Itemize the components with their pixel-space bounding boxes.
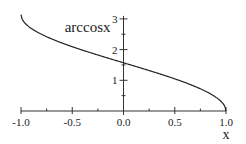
- x-axis-label: x: [223, 127, 230, 142]
- x-tick-label: 0.0: [117, 116, 131, 128]
- curve-label: arccosx: [65, 19, 111, 35]
- arccos-chart: -1.0-0.50.00.51.0123 arccosx x: [0, 0, 246, 144]
- y-tick-label: 3: [112, 13, 118, 25]
- x-tick-label: -1.0: [12, 116, 30, 128]
- y-tick-label: 2: [112, 44, 118, 56]
- x-tick-label: 0.5: [168, 116, 182, 128]
- x-tick-label: -0.5: [64, 116, 82, 128]
- y-tick-label: 1: [112, 74, 118, 86]
